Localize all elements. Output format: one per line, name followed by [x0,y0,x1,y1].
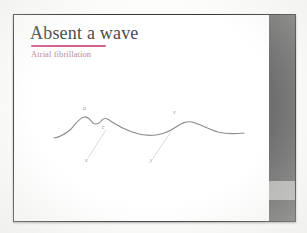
x-descent-leader-line [88,130,106,158]
x-descent-label: x [84,157,88,163]
y-descent-leader-line [153,132,171,158]
a-wave-label: a [83,105,86,111]
sidebar-segment-light [269,181,295,200]
jvp-trace-path [54,117,244,138]
sidebar-segment-dark-bottom [269,200,295,222]
title-block: Absent a wave Atrial fibrillation [30,23,250,60]
presentation-slide: Absent a wave Atrial fibrillation a c v … [13,14,296,222]
sidebar-segment-dark-top [269,15,295,181]
v-wave-label: v [173,109,176,115]
slide-decorative-sidebar [269,15,295,222]
y-descent-label: y [149,157,153,163]
page-subtitle: Atrial fibrillation [31,49,250,60]
title-underline-rule [31,45,106,47]
page-title: Absent a wave [30,23,250,44]
scanned-slide-photo: Absent a wave Atrial fibrillation a c v … [0,0,307,233]
jvp-waveform-figure: a c v x y [54,87,244,167]
c-wave-label: c [102,124,105,130]
